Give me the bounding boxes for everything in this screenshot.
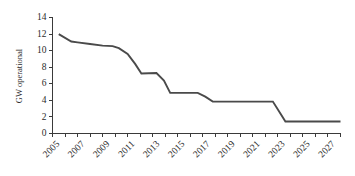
x-tick-label: 2007 [66,139,87,160]
x-tick-label: 2025 [291,139,312,160]
x-axis-ticks [53,134,341,138]
x-tick-label: 2005 [41,139,62,160]
y-axis-ticks: 02468101214 [37,12,53,138]
y-tick-label: 12 [37,29,47,39]
x-tick-label: 2009 [91,139,112,160]
data-series-line [59,34,341,121]
y-tick-label: 10 [37,45,47,55]
x-axis-labels: 2005200720092011201320152017201920212023… [41,139,337,160]
x-tick-label: 2027 [316,139,337,160]
y-tick-label: 6 [42,78,47,88]
x-tick-label: 2011 [116,139,136,159]
y-axis-title-group: GW operational [14,48,24,103]
x-tick-label: 2019 [216,139,237,160]
x-tick-label: 2021 [241,139,262,160]
x-tick-label: 2017 [191,139,212,160]
y-tick-label: 2 [42,112,47,122]
x-tick-label: 2015 [166,139,187,160]
y-tick-label: 4 [42,95,47,105]
x-tick-label: 2023 [266,139,287,160]
chart-container: GW operational 02468101214 2005200720092… [0,0,355,176]
y-axis-title: GW operational [14,48,24,103]
y-tick-label: 8 [42,62,47,72]
y-tick-label: 14 [37,12,47,22]
x-tick-label: 2013 [141,139,162,160]
y-tick-label: 0 [42,128,47,138]
line-chart: GW operational 02468101214 2005200720092… [0,0,355,176]
